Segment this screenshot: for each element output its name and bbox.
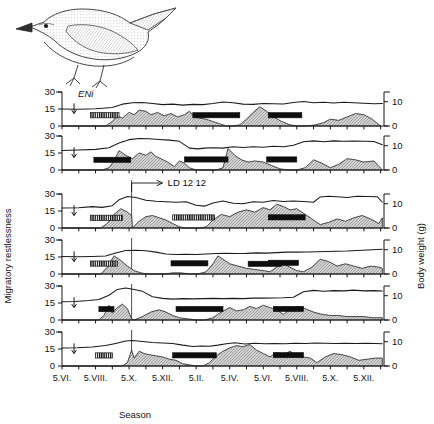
season-tick-label: 5.XII. (353, 373, 374, 383)
photoperiod-bar (268, 215, 305, 220)
photoperiod-bar (96, 353, 113, 358)
chart-panel-4: 30150010 (44, 234, 402, 279)
left-tick-label: 0 (50, 268, 55, 279)
photoperiod-bar (273, 353, 303, 358)
right-tick-label: 0 (392, 314, 397, 325)
right-tick-label: 0 (392, 360, 397, 371)
panel-right-axis (384, 136, 390, 170)
treatment-event-arrow (72, 343, 77, 353)
photoperiod-bar (193, 113, 240, 118)
figure-root: 30150010ENi3015001030150010LD 12 1230150… (0, 0, 434, 424)
photoperiod-bar (91, 113, 120, 118)
body-weight-curve (62, 249, 382, 257)
panel-right-axis (384, 92, 390, 126)
photoperiod-bar (91, 261, 118, 266)
season-tick-label: 5.VI. (53, 373, 72, 383)
photoperiod-bar (91, 215, 123, 220)
warbler-bird-illustration (8, 2, 218, 88)
photoperiod-bar (173, 353, 217, 358)
x-axis-title: Season (119, 409, 151, 420)
chart-panel-6: 30150010 (44, 326, 402, 371)
panel-right-axis (384, 332, 390, 366)
chart-panel-5: 30150010 (44, 280, 402, 325)
left-tick-label: 30 (44, 326, 55, 337)
left-tick-label: 0 (50, 222, 55, 233)
left-tick-label: 15 (44, 251, 55, 262)
left-tick-label: 30 (44, 86, 55, 97)
photoperiod-bar (94, 157, 131, 162)
left-tick-label: 15 (44, 147, 55, 158)
right-axis-title: Body weight (g) (415, 223, 426, 289)
treatment-event-arrow (72, 147, 77, 157)
season-tick-label: 5.IV. (221, 373, 239, 383)
right-tick-label: 10 (392, 96, 403, 107)
right-tick-label: 0 (392, 222, 397, 233)
season-tick-label: 5.II. (189, 373, 204, 383)
right-tick-label: 0 (392, 120, 397, 131)
chart-panel-3: 30150010LD 12 12 (44, 177, 402, 233)
left-tick-label: 15 (44, 297, 55, 308)
left-tick-label: 30 (44, 234, 55, 245)
panel-right-axis (384, 194, 390, 228)
photoperiod-bar (267, 157, 297, 162)
left-tick-label: 30 (44, 280, 55, 291)
right-tick-label: 10 (392, 336, 403, 347)
chart-panel-1: 30150010ENi (44, 86, 402, 131)
left-tick-label: 15 (44, 205, 55, 216)
chart-stage: 30150010ENi3015001030150010LD 12 1230150… (0, 88, 434, 424)
season-tick-label: 5.VIII. (84, 373, 108, 383)
season-tick-label: 5.X. (322, 373, 338, 383)
photoperiod-bar (184, 157, 228, 162)
photoperiod-bar (173, 215, 215, 220)
chart-panel-2: 30150010 (44, 130, 402, 175)
left-tick-label: 0 (50, 164, 55, 175)
photoperiod-bar (171, 261, 208, 266)
body-weight-curve (62, 101, 382, 109)
panel-right-axis (384, 286, 390, 320)
ld-leader-line (132, 180, 163, 192)
left-tick-label: 0 (50, 314, 55, 325)
left-tick-label: 15 (44, 343, 55, 354)
photoperiod-bar (99, 307, 114, 312)
photoperiod-bar (268, 260, 298, 265)
left-axis-title: Migratory restlessness (2, 208, 13, 303)
body-weight-curve (62, 288, 382, 302)
season-tick-label: 5.X. (121, 373, 137, 383)
photoperiod-bar (268, 113, 302, 118)
season-tick-label: 5.VIII. (285, 373, 309, 383)
season-tick-label: 5.VI. (254, 373, 273, 383)
right-tick-label: 0 (392, 164, 397, 175)
treatment-event-arrow (72, 205, 77, 215)
right-tick-label: 10 (392, 290, 403, 301)
photoperiod-bar (176, 306, 223, 311)
body-weight-curve (62, 196, 382, 208)
right-tick-label: 10 (392, 140, 403, 151)
left-tick-label: 0 (50, 360, 55, 371)
ld-12-12-annotation-label: LD 12 12 (168, 177, 207, 188)
bird-body (16, 8, 176, 88)
treatment-event-arrow (72, 103, 77, 113)
season-tick-label: 5.XII. (152, 373, 173, 383)
panel-right-axis (384, 240, 390, 274)
left-tick-label: 15 (44, 103, 55, 114)
body-weight-curve (62, 138, 382, 150)
left-tick-label: 30 (44, 130, 55, 141)
eni-annotation-label: ENi (78, 88, 94, 99)
body-weight-curve (62, 341, 382, 349)
right-tick-label: 10 (392, 198, 403, 209)
right-tick-label: 10 (392, 244, 403, 255)
right-tick-label: 0 (392, 268, 397, 279)
treatment-event-arrow (72, 297, 77, 307)
multi-panel-chart: 30150010ENi3015001030150010LD 12 1230150… (0, 88, 434, 424)
photoperiod-bar (273, 306, 303, 311)
left-tick-label: 30 (44, 188, 55, 199)
